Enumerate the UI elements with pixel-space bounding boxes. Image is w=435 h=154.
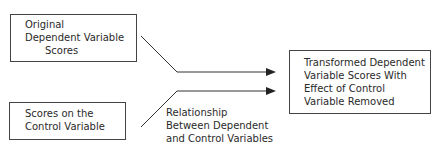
- box-line: Original: [25, 19, 64, 32]
- arrowhead-icon: [266, 87, 276, 95]
- box-line: Scores: [45, 45, 78, 58]
- box-line: Transformed Dependent: [304, 57, 425, 70]
- arrowhead-icon: [266, 68, 276, 76]
- box-line: Scores on the: [25, 108, 93, 121]
- box-line: Variable Scores With: [304, 70, 407, 83]
- original-scores-box: Original Dependent Variable Scores: [10, 14, 137, 62]
- box-line: Control Variable: [25, 121, 105, 134]
- transformed-scores-box: Transformed Dependent Variable Scores Wi…: [289, 50, 431, 114]
- box-line: Dependent Variable: [25, 32, 124, 45]
- control-scores-box: Scores on the Control Variable: [9, 102, 126, 140]
- label-line: Between Dependent: [166, 120, 268, 133]
- diagram-canvas: Original Dependent Variable Scores Score…: [0, 0, 435, 154]
- box-line: Effect of Control: [304, 83, 385, 96]
- box-line: Variable Removed: [304, 96, 395, 109]
- label-line: Relationship: [166, 107, 227, 120]
- label-line: and Control Variables: [166, 133, 273, 146]
